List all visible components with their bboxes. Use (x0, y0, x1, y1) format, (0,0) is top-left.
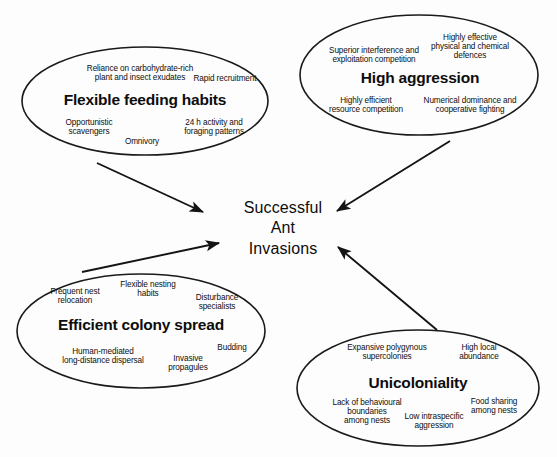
attr-flexible-nesting-habits: Flexible nesting habits (120, 280, 175, 298)
attr-24h-activity: 24 h activity and foraging patterns (184, 118, 244, 136)
arrow-aggression-to-center (337, 141, 450, 211)
attr-opportunistic-scavengers: Opportunistic scavengers (66, 118, 113, 136)
arrow-feeding-to-center (97, 163, 203, 212)
attr-budding: Budding (217, 343, 246, 352)
node-title-flexible-feeding-habits: Flexible feeding habits (64, 91, 227, 108)
attr-food-sharing-among-nests: Food sharing among nests (471, 397, 518, 415)
attr-rapid-recruitment: Rapid recruitment (194, 74, 257, 83)
attr-omnivory: Omnivory (125, 137, 159, 146)
attr-invasive-propagules: Invasive propagules (168, 354, 208, 372)
attr-numerical-dominance: Numerical dominance and cooperative figh… (424, 96, 517, 114)
node-title-unicoloniality: Unicoloniality (369, 374, 468, 391)
arrow-unicoloniality-to-center (338, 247, 437, 330)
attr-superior-interference: Superior interference and exploitation c… (329, 46, 419, 64)
attr-low-intraspecific-aggression: Low intraspecific aggression (405, 412, 464, 430)
arrow-colony-to-center (82, 243, 219, 272)
diagram-canvas: SuccessfulAntInvasions Reliance on carbo… (0, 0, 557, 457)
attr-disturbance-specialists: Disturbance specialists (196, 293, 239, 311)
node-title-high-aggression: High aggression (361, 69, 479, 86)
attr-highly-effective-defences: Highly effective physical and chemical d… (431, 33, 509, 61)
attr-human-mediated-dispersal: Human-mediated long-distance dispersal (62, 347, 143, 365)
node-title-efficient-colony-spread: Efficient colony spread (58, 316, 224, 333)
attr-high-local-abundance: High local abundance (459, 343, 499, 361)
center-label-line-1: Successful (244, 199, 322, 216)
attr-highly-efficient-resource: Highly efficient resource competition (329, 96, 403, 114)
center-label-line-2: Ant (271, 220, 295, 237)
center-label: SuccessfulAntInvasions (244, 198, 322, 259)
attr-expansive-polygynous: Expansive polygynous supercolonies (347, 343, 426, 361)
center-label-line-3: Invasions (249, 240, 318, 257)
attr-reliance-carbohydrate: Reliance on carbohydrate-rich plant and … (87, 64, 193, 82)
attr-frequent-nest-relocation: Frequent nest relocation (50, 287, 99, 305)
attr-lack-behavioural-boundaries: Lack of behavioural boundaries among nes… (332, 398, 401, 426)
